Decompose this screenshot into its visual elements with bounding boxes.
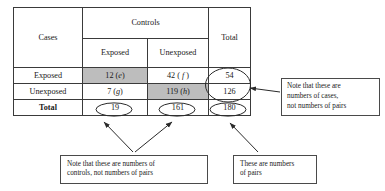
cell-h-tag: h: [183, 87, 187, 96]
row-label-total: Total: [14, 100, 83, 116]
table-row: Unexposed 7 (g) 119 (h) 126: [14, 84, 251, 100]
contingency-table-figure: Cases Controls Total Exposed Unexposed E…: [0, 0, 385, 191]
table-row: Exposed 12 (e) 42 ( f ) 54: [14, 68, 251, 84]
cell-f-tag: f: [182, 71, 184, 80]
annotation-line: not numbers of pairs: [287, 102, 379, 112]
annotation-line: Note that these are: [287, 82, 379, 92]
cell-col-total-exposed: 19: [83, 100, 148, 116]
row-label-unexposed: Unexposed: [14, 84, 83, 100]
table-header-row-primary: Cases Controls Total: [14, 8, 251, 39]
cell-h: 119 (h): [148, 84, 209, 100]
annotation-note-controls: Note that these are numbers of controls,…: [60, 155, 208, 184]
row-label-exposed: Exposed: [14, 68, 83, 84]
cell-col-total-unexposed: 161: [148, 100, 209, 116]
annotation-note-pairs: These are numbers of pairs: [233, 155, 317, 184]
cell-f: 42 ( f ): [148, 68, 209, 84]
arrow-to-case-totals: [250, 88, 280, 92]
cell-h-value: 119: [166, 87, 178, 96]
arrow-to-total-19: [104, 122, 133, 152]
header-controls-unexposed: Unexposed: [148, 39, 209, 68]
cell-grand-total: 180: [209, 100, 251, 116]
cell-row-total-exposed: 54: [209, 68, 251, 84]
header-total: Total: [209, 8, 251, 68]
annotation-line: controls, not numbers of pairs: [67, 169, 207, 179]
annotation-line: These are numbers: [240, 160, 316, 170]
header-cases: Cases: [14, 8, 83, 68]
cell-g-value: 7: [107, 87, 111, 96]
cell-e-value: 12: [105, 71, 113, 80]
matched-pairs-table: Cases Controls Total Exposed Unexposed E…: [13, 7, 251, 116]
annotation-line: numbers of cases,: [287, 92, 379, 102]
annotation-line: of pairs: [240, 169, 316, 179]
annotation-note-cases: Note that these are numbers of cases, no…: [281, 78, 380, 116]
arrow-to-grand-total: [230, 123, 258, 152]
cell-g-tag: g: [116, 87, 120, 96]
cell-e-tag: e: [118, 71, 122, 80]
cell-row-total-unexposed: 126: [209, 84, 251, 100]
cell-e: 12 (e): [83, 68, 148, 84]
table-total-row: Total 19 161 180: [14, 100, 251, 116]
cell-f-value: 42: [167, 71, 175, 80]
cell-g: 7 (g): [83, 84, 148, 100]
arrow-to-total-161: [135, 122, 172, 152]
header-controls: Controls: [83, 8, 209, 39]
annotation-line: Note that these are numbers of: [67, 160, 207, 170]
header-controls-exposed: Exposed: [83, 39, 148, 68]
